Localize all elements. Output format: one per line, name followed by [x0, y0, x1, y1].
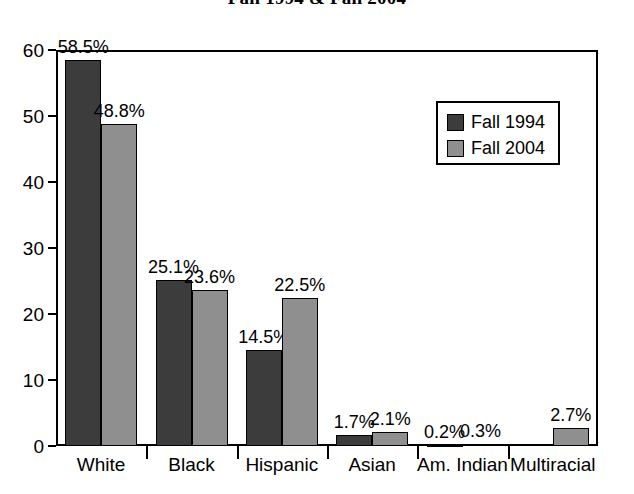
y-axis-tick-label: 20: [2, 305, 44, 324]
y-axis-tick-mark: [48, 115, 56, 117]
bar-value-label: 48.8%: [94, 102, 145, 120]
legend-label-fall-1994: Fall 1994: [471, 113, 545, 131]
bar: [282, 298, 318, 447]
legend-label-fall-2004: Fall 2004: [471, 139, 545, 157]
y-axis-tick-label: 60: [2, 41, 44, 60]
y-axis-tick-mark: [48, 181, 56, 183]
x-axis-category-label: Am. Indian: [417, 455, 508, 474]
y-axis-tick-mark: [48, 247, 56, 249]
y-axis-tick-mark: [48, 313, 56, 315]
bar: [246, 350, 282, 446]
y-axis-tick-label: 50: [2, 107, 44, 126]
bar: [427, 445, 463, 447]
bar: [553, 428, 589, 446]
y-axis-tick-label: 10: [2, 371, 44, 390]
x-axis-category-label: Hispanic: [245, 455, 318, 474]
x-axis-tick-mark: [327, 446, 329, 459]
bar: [372, 432, 408, 446]
bar-value-label: 22.5%: [274, 276, 325, 294]
x-axis-category-label: Black: [168, 455, 214, 474]
bar: [336, 435, 372, 446]
legend-item-fall-1994: Fall 1994: [447, 110, 558, 134]
bar-value-label: 2.1%: [370, 410, 411, 428]
bar-chart-figure: Fall 1994 & Fall 2004 0102030405060 Whit…: [0, 0, 634, 494]
bar-value-label: 2.7%: [550, 406, 591, 424]
y-axis-tick-mark: [48, 379, 56, 381]
y-axis-tick-label: 0: [2, 437, 44, 456]
y-axis-tick-label: 30: [2, 239, 44, 258]
y-axis-tick-mark: [48, 445, 56, 447]
x-axis-tick-mark: [146, 446, 148, 459]
x-axis-category-label: Asian: [348, 455, 396, 474]
chart-legend: Fall 1994 Fall 2004: [436, 101, 560, 165]
bar: [156, 280, 192, 446]
legend-swatch-fall-2004: [447, 140, 464, 157]
legend-item-fall-2004: Fall 2004: [447, 136, 558, 160]
bar: [192, 290, 228, 446]
bar-value-label: 0.2%: [424, 423, 465, 441]
bar-value-label: 1.7%: [334, 413, 375, 431]
bar-value-label: 58.5%: [58, 38, 109, 56]
x-axis-tick-mark: [237, 446, 239, 459]
y-axis-tick-mark: [48, 49, 56, 51]
chart-title: Fall 1994 & Fall 2004: [0, 0, 634, 9]
y-axis-tick-label: 40: [2, 173, 44, 192]
bar: [463, 444, 499, 446]
x-axis-category-label: White: [77, 455, 126, 474]
x-axis-category-label: Multiracial: [510, 455, 596, 474]
bar-value-label: 23.6%: [184, 268, 235, 286]
legend-swatch-fall-1994: [447, 114, 464, 131]
bar-value-label: 0.3%: [460, 422, 501, 440]
bar: [101, 124, 137, 446]
